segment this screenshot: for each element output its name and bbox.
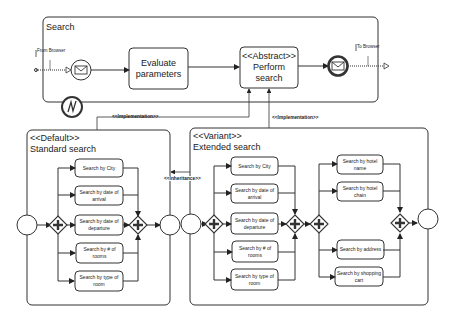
variant-stereotype: <<Variant>> (193, 131, 242, 141)
to-browser-label: To Browser (357, 44, 380, 49)
implementation-label-left: <<Implementation>> (112, 114, 159, 119)
variant-task[interactable]: Search by address (337, 240, 384, 259)
variant-task[interactable]: Search by date of arrival (231, 184, 278, 203)
variant-task[interactable]: Search by hotel name (337, 155, 383, 174)
default-title: Standard search (30, 144, 96, 154)
default-task[interactable]: Search by type of room (75, 271, 123, 291)
default-task[interactable]: Search by date of departure (75, 215, 123, 235)
evaluate-parameters-task[interactable]: Evaluate parameters (129, 48, 188, 89)
pool-title: Search (46, 22, 75, 32)
variant-task[interactable]: Search by # of rooms (232, 241, 278, 262)
variant-task[interactable]: Search by date of departure (231, 213, 278, 234)
from-browser-label: From Browser (37, 48, 65, 53)
implementation-label-right: <<Implementation>> (272, 115, 319, 120)
message-start-event (71, 60, 91, 80)
default-task[interactable]: Search by City (75, 159, 123, 177)
message-end-event (329, 57, 348, 76)
variant-task[interactable]: Search by type of room (231, 269, 278, 290)
default-task[interactable]: Search by # of rooms (76, 243, 123, 263)
default-task[interactable]: Search by date of arrival (75, 186, 123, 205)
variant-task[interactable]: Search by hotel chain (337, 182, 383, 201)
variant-task[interactable]: Search by shopping cart (335, 267, 383, 286)
default-stereotype: <<Default>> (30, 133, 80, 143)
diagram-canvas (0, 0, 453, 320)
search-pool (43, 17, 378, 102)
variant-title: Extended search (193, 142, 261, 152)
perform-search-task[interactable]: <<Abstract>> Perform search (240, 47, 298, 88)
variant-task[interactable]: Search by City (231, 157, 278, 175)
inheritance-label: <<Inheritance>> (164, 176, 201, 181)
